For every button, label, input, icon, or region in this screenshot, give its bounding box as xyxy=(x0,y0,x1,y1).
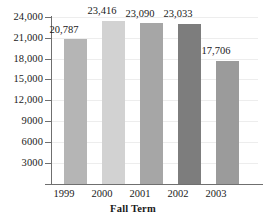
x-axis-title: Fall Term xyxy=(0,203,266,214)
y-axis-line xyxy=(51,16,52,185)
ytick-mark-9000 xyxy=(45,121,51,122)
x-axis-line xyxy=(45,184,263,185)
bar-2000 xyxy=(102,21,125,184)
ytick-mark-15000 xyxy=(45,79,51,80)
bar-2003 xyxy=(216,61,239,184)
bar-value-label-2002: 23,033 xyxy=(154,9,202,20)
bar-value-label-1999: 20,787 xyxy=(40,25,88,36)
ytick-mark-21000 xyxy=(45,38,51,39)
ytick-label-15000: 15,000 xyxy=(14,74,43,85)
plot-area xyxy=(52,17,258,184)
bar-2001 xyxy=(140,23,163,184)
bar-chart: 24,000 21,000 18,000 15,000 12,000 9000 … xyxy=(0,0,266,224)
ytick-label-12000: 12,000 xyxy=(14,95,43,106)
ytick-mark-24000 xyxy=(45,17,51,18)
ytick-label-24000: 24,000 xyxy=(14,12,43,23)
ytick-label-18000: 18,000 xyxy=(14,54,43,65)
ytick-mark-3000 xyxy=(45,163,51,164)
ytick-label-21000: 21,000 xyxy=(14,33,43,44)
xtick-label-2003: 2003 xyxy=(192,188,240,199)
ytick-label-6000: 6000 xyxy=(22,137,43,148)
ytick-label-9000: 9000 xyxy=(22,116,43,127)
ytick-mark-6000 xyxy=(45,142,51,143)
bar-value-label-2003: 17,706 xyxy=(192,46,240,57)
ytick-mark-12000 xyxy=(45,100,51,101)
ytick-mark-18000 xyxy=(45,59,51,60)
ytick-label-3000: 3000 xyxy=(22,158,43,169)
bar-1999 xyxy=(64,39,87,184)
